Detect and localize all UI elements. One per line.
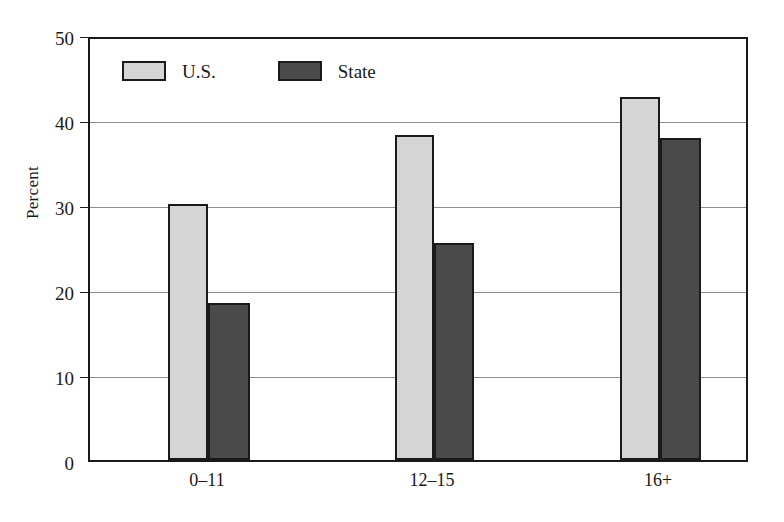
bar-us-16plus (620, 97, 660, 460)
legend-entry-state: State (278, 61, 376, 81)
x-axis: 0–11 12–15 16+ (88, 470, 748, 500)
y-tick-mark-20 (80, 292, 88, 293)
y-tick-mark-50 (80, 37, 88, 38)
bar-state-0-11 (208, 303, 250, 460)
y-tick-label-20: 20 (55, 284, 74, 303)
bar-us-12-15 (395, 135, 434, 460)
legend-swatch-icon-state (278, 61, 322, 81)
y-tick-mark-40 (80, 122, 88, 123)
bar-us-0-11 (168, 204, 208, 460)
legend-label-us: U.S. (182, 62, 216, 81)
y-axis: 50 40 30 20 10 0 (0, 0, 88, 522)
y-tick-mark-30 (80, 207, 88, 208)
y-tick-label-50: 50 (55, 29, 74, 48)
legend-label-state: State (338, 62, 376, 81)
y-tick-label-40: 40 (55, 114, 74, 133)
bar-state-16plus (660, 138, 701, 460)
y-tick-label-0: 0 (65, 454, 75, 473)
y-tick-label-10: 10 (55, 369, 74, 388)
legend-swatch-icon-us (122, 61, 166, 81)
bar-state-12-15 (434, 243, 474, 460)
legend: U.S. State (122, 61, 438, 81)
y-tick-mark-10 (80, 377, 88, 378)
y-tick-label-30: 30 (55, 199, 74, 218)
y-axis-title: Percent (23, 193, 43, 219)
x-tick-label-16plus: 16+ (644, 470, 672, 491)
x-tick-label-0-11: 0–11 (189, 470, 224, 491)
bar-chart-figure: 50 40 30 20 10 0 Percent U.S. State (0, 0, 784, 522)
x-tick-label-12-15: 12–15 (410, 470, 455, 491)
plot-area: U.S. State (88, 37, 748, 462)
legend-entry-us: U.S. (122, 61, 216, 81)
